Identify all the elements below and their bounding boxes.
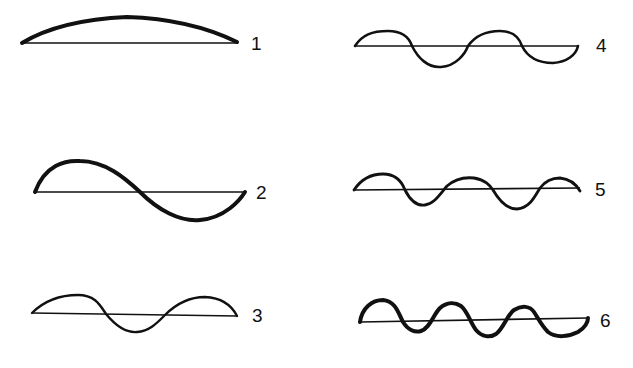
harmonic-label: 5 — [595, 179, 606, 200]
harmonic-2: 2 — [35, 161, 267, 220]
wave-curve — [355, 31, 578, 67]
harmonics-diagram: 1 2 3 4 5 6 — [0, 0, 633, 368]
harmonic-5: 5 — [354, 174, 606, 209]
baseline — [354, 188, 580, 190]
baseline — [360, 318, 588, 322]
wave-curve — [22, 17, 237, 43]
harmonic-3: 3 — [32, 295, 263, 332]
harmonic-1: 1 — [22, 17, 262, 54]
harmonic-4: 4 — [355, 31, 607, 67]
harmonic-label: 6 — [600, 310, 611, 331]
harmonic-label: 1 — [251, 33, 262, 54]
wave-curve — [35, 161, 245, 220]
harmonic-label: 4 — [596, 35, 607, 56]
harmonic-label: 3 — [252, 305, 263, 326]
harmonic-label: 2 — [256, 182, 267, 203]
baseline — [32, 313, 237, 316]
harmonic-6: 6 — [360, 300, 611, 336]
wave-curve — [354, 174, 580, 209]
